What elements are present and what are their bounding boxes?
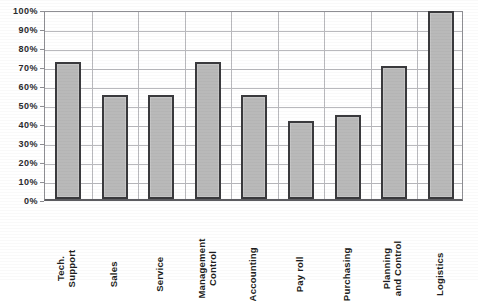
bar-slot: [138, 12, 185, 199]
y-axis-tick-label: 0%: [24, 196, 38, 206]
y-axis-tick-label: 100%: [13, 6, 38, 16]
y-axis-tick-label: 50%: [18, 101, 38, 111]
y-axis: 100%90%80%70%60%50%40%30%20%10%0%: [0, 0, 40, 280]
x-axis-label-accounting: Accounting: [230, 205, 277, 279]
bar-pay-roll[interactable]: [288, 121, 314, 199]
bar-slot: [278, 12, 325, 199]
bar-purchasing[interactable]: [335, 115, 361, 199]
x-axis-label-line: and Control: [393, 241, 404, 297]
plot-area: [44, 11, 463, 201]
y-axis-tick-label: 60%: [18, 82, 38, 92]
bar-management-control[interactable]: [195, 62, 221, 199]
y-axis-tick-label: 70%: [18, 63, 38, 73]
bar-sales[interactable]: [102, 95, 128, 200]
x-axis-label-line: Support: [67, 250, 78, 288]
x-axis-label-line: Service: [155, 256, 166, 291]
x-axis-label-pay-roll: Pay roll: [277, 205, 324, 279]
x-axis-label-line: Sales: [109, 261, 120, 287]
bar-slot: [45, 12, 92, 199]
bar-accounting[interactable]: [241, 95, 267, 200]
x-axis-label-logistics: Logistics: [416, 205, 463, 279]
y-axis-tick: [40, 201, 44, 202]
x-axis-label-sales: Sales: [91, 205, 138, 279]
bar-slot: [185, 12, 232, 199]
x-axis-label-management-control: ManagementControl: [184, 205, 231, 279]
x-axis-label-line: Logistics: [434, 252, 445, 296]
x-axis-label-line: Pay roll: [295, 256, 306, 292]
y-axis-tick-label: 80%: [18, 44, 38, 54]
bar-slot: [92, 12, 139, 199]
bar-slot: [371, 12, 418, 199]
bar-logistics[interactable]: [428, 11, 454, 199]
x-axis-labels: Tech.SupportSalesServiceManagementContro…: [44, 203, 463, 280]
y-axis-tick-label: 20%: [18, 158, 38, 168]
bar-slot: [231, 12, 278, 199]
x-axis-label-line: Management: [196, 238, 207, 298]
x-axis-label-tech-support: Tech.Support: [44, 205, 91, 279]
y-axis-tick-label: 90%: [18, 25, 38, 35]
bar-tech-support[interactable]: [55, 62, 81, 199]
x-axis-label-planning-and-control: Planningand Control: [370, 205, 417, 279]
bar-slot: [417, 12, 464, 199]
x-axis-label-purchasing: Purchasing: [323, 205, 370, 279]
bar-planning-and-control[interactable]: [381, 66, 407, 199]
y-axis-tick-label: 10%: [18, 177, 38, 187]
x-axis-label-line: Purchasing: [341, 247, 352, 301]
y-axis-tick-label: 30%: [18, 139, 38, 149]
bar-slot: [324, 12, 371, 199]
y-axis-tick-label: 40%: [18, 120, 38, 130]
x-axis-label-service: Service: [137, 205, 184, 279]
x-axis-label-line: Control: [207, 238, 218, 298]
bar-service[interactable]: [148, 95, 174, 200]
x-axis-label-line: Accounting: [248, 247, 259, 301]
